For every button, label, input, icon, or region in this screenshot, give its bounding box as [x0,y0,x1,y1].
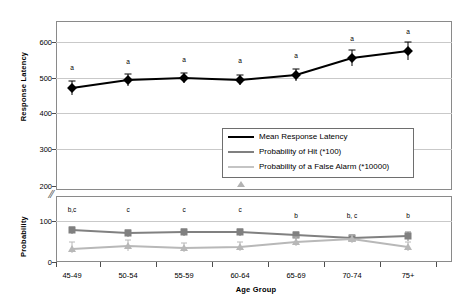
chart-figure: Response Latency Probability 600 500 400… [0,0,476,303]
x-tickmark-6 [380,262,381,267]
legend-label-0: Mean Response Latency [259,132,348,141]
x-label-70-74: 70-74 [329,271,375,280]
legend-item-probability-of-false-alarm[interactable]: Probability of a False Alarm (*10000) [223,159,413,174]
x-label-55-59: 55-59 [161,271,207,280]
legend-label-2: Probability of a False Alarm (*10000) [259,162,389,171]
x-tickmark-5 [324,262,325,267]
x-tickmark-0 [56,262,57,267]
x-tickmark-7 [436,262,437,267]
x-tickmark-2 [156,262,157,267]
legend-label-1: Probability of Hit (*100) [259,147,341,156]
x-label-65-69: 65-69 [273,271,319,280]
legend-key-triangle [228,162,254,171]
x-tickmark-4 [268,262,269,267]
legend-item-probability-of-hit[interactable]: Probability of Hit (*100) [223,144,413,159]
chart-legend: Mean Response Latency Probability of Hit… [222,128,414,178]
x-tickmark-3 [212,262,213,267]
x-axis-title: Age Group [186,285,326,294]
x-tickmark-1 [100,262,101,267]
legend-key-diamond [228,132,254,141]
x-label-75-plus: 75+ [385,271,431,280]
x-label-45-49: 45-49 [49,271,95,280]
legend-key-square [228,147,254,156]
x-label-50-54: 50-54 [105,271,151,280]
x-label-60-64: 60-64 [217,271,263,280]
legend-item-mean-response-latency[interactable]: Mean Response Latency [223,129,413,144]
